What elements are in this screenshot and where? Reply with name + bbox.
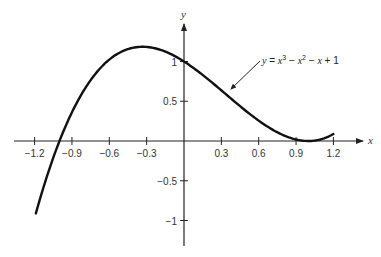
x-tick-label: −1.2 — [25, 148, 45, 159]
eq-minus-2: − — [306, 55, 317, 66]
cubic-curve — [36, 47, 334, 214]
y-tick-label: −0.5 — [157, 176, 177, 187]
x-tick-label: 0.9 — [289, 148, 303, 159]
x-tick-label: 0.6 — [252, 148, 266, 159]
x-tick-label: 1.2 — [326, 148, 340, 159]
y-tick-label: 0.5 — [163, 96, 177, 107]
equation-label: y = x3 − x2 − x + 1 — [261, 54, 339, 66]
y-axis-label: y — [180, 8, 186, 20]
annotation-leader-arrow — [231, 61, 260, 89]
x-axis-label: x — [367, 134, 373, 146]
x-tick-label: −0.3 — [137, 148, 157, 159]
x-tick-label: −0.6 — [99, 148, 119, 159]
eq-equals: = — [266, 55, 277, 66]
x-ticks: −1.2−0.9−0.6−0.30.30.60.91.2 — [25, 137, 341, 159]
eq-plus-one: + 1 — [322, 55, 339, 66]
y-tick-label: −1 — [166, 216, 178, 227]
function-plot: x y −1.2−0.9−0.6−0.30.30.60.91.2 10.5−0.… — [0, 0, 381, 257]
eq-minus-1: − — [286, 55, 297, 66]
x-tick-label: 0.3 — [214, 148, 228, 159]
x-tick-label: −0.9 — [62, 148, 82, 159]
